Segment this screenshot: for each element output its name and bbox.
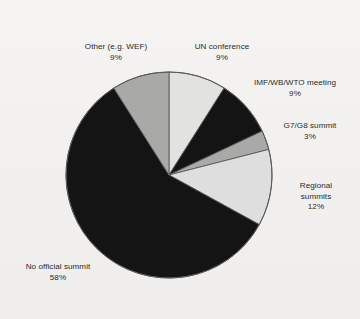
pie-label-other-pct: 9% [62,53,170,64]
pie-label-regional-summits: Regional summits 12% [276,181,356,213]
pie-label-un-conference-pct: 9% [176,53,268,64]
pie-label-g7-g8-summit: G7/G8 summit 3% [262,121,358,142]
pie-slice-group [66,72,272,278]
pie-label-g7-g8-summit-pct: 3% [262,132,358,143]
pie-label-regional-summits-name2: summits [276,192,356,203]
pie-label-no-official-summit-pct: 58% [4,273,112,284]
pie-chart-figure: Other (e.g. WEF) 9% UN conference 9% IMF… [0,0,360,319]
pie-label-other: Other (e.g. WEF) 9% [62,42,170,63]
pie-label-regional-summits-name: Regional [300,181,332,190]
pie-label-imf-wb-wto-meeting: IMF/WB/WTO meeting 9% [232,78,358,99]
pie-label-imf-wb-wto-meeting-pct: 9% [232,89,358,100]
pie-label-g7-g8-summit-name: G7/G8 summit [284,121,337,130]
pie-label-no-official-summit: No official summit 58% [4,262,112,283]
pie-label-other-name: Other (e.g. WEF) [85,42,147,51]
pie-label-un-conference: UN conference 9% [176,42,268,63]
pie-label-un-conference-name: UN conference [195,42,250,51]
pie-label-imf-wb-wto-meeting-name: IMF/WB/WTO meeting [254,78,336,87]
pie-label-regional-summits-pct: 12% [276,202,356,213]
pie-label-no-official-summit-name: No official summit [26,262,91,271]
